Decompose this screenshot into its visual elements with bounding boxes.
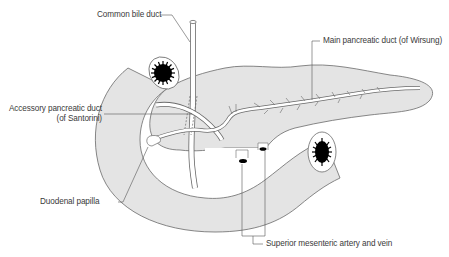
label-main-pancreatic-duct: Main pancreatic duct (of Wirsung) bbox=[323, 36, 442, 46]
duodenum-lower-lumen-icon bbox=[312, 138, 332, 166]
label-common-bile-duct: Common bile duct bbox=[97, 10, 161, 20]
label-accessory-duct-line2: (of Santorini) bbox=[6, 114, 102, 124]
label-accessory-duct-line1: Accessory pancreatic duct bbox=[6, 104, 102, 114]
label-duodenal-papilla: Duodenal papilla bbox=[40, 197, 99, 207]
label-sma-smv: Superior mesenteric artery and vein bbox=[266, 239, 392, 249]
duodenum-upper-lumen-icon bbox=[151, 61, 175, 85]
pancreas-diagram: Common bile duct Main pancreatic duct (o… bbox=[0, 0, 449, 257]
bile-duct-cut-end bbox=[190, 20, 196, 23]
